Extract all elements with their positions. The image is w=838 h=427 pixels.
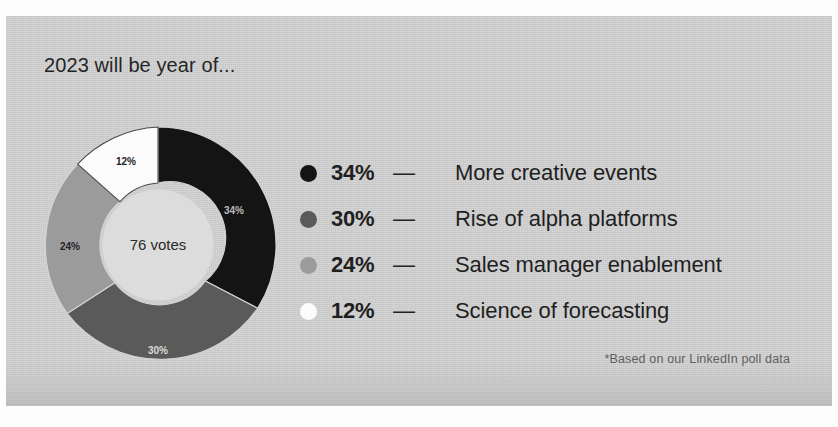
legend-label: More creative events bbox=[455, 160, 657, 186]
page-title: 2023 will be year of... bbox=[44, 54, 235, 77]
legend-item-sales-manager-enablement[interactable]: 24% — Sales manager enablement bbox=[300, 242, 820, 288]
legend-item-science-of-forecasting[interactable]: 12% — Science of forecasting bbox=[300, 288, 820, 334]
source-footnote: *Based on our LinkedIn poll data bbox=[605, 352, 791, 366]
legend-item-rise-of-alpha-platforms[interactable]: 30% — Rise of alpha platforms bbox=[300, 196, 820, 242]
donut-center-label: 76 votes bbox=[130, 236, 187, 253]
legend-bullet-icon bbox=[300, 257, 317, 274]
legend-dash: — bbox=[393, 298, 455, 324]
legend-percent: 30% bbox=[331, 206, 393, 232]
donut-label-30: 30% bbox=[148, 345, 168, 356]
legend-item-more-creative-events[interactable]: 34% — More creative events bbox=[300, 150, 820, 196]
legend-label: Science of forecasting bbox=[455, 298, 669, 324]
chart-legend: 34% — More creative events 30% — Rise of… bbox=[300, 150, 820, 334]
donut-label-12: 12% bbox=[116, 156, 136, 167]
legend-percent: 34% bbox=[331, 160, 393, 186]
donut-chart: 34% 30% 24% 12% 76 votes bbox=[38, 122, 278, 368]
legend-percent: 12% bbox=[331, 298, 393, 324]
legend-dash: — bbox=[393, 252, 455, 278]
legend-label: Sales manager enablement bbox=[455, 252, 722, 278]
legend-dash: — bbox=[393, 160, 455, 186]
legend-bullet-icon bbox=[300, 211, 317, 228]
scanned-page: 2023 will be year of... 34% 30% 24% 12% … bbox=[0, 0, 838, 427]
legend-label: Rise of alpha platforms bbox=[455, 206, 678, 232]
donut-label-34: 34% bbox=[224, 205, 244, 216]
donut-chart-svg: 34% 30% 24% 12% 76 votes bbox=[38, 122, 278, 368]
donut-label-24: 24% bbox=[60, 241, 80, 252]
legend-percent: 24% bbox=[331, 252, 393, 278]
legend-bullet-icon bbox=[300, 165, 317, 182]
legend-bullet-icon bbox=[300, 303, 317, 320]
legend-dash: — bbox=[393, 206, 455, 232]
